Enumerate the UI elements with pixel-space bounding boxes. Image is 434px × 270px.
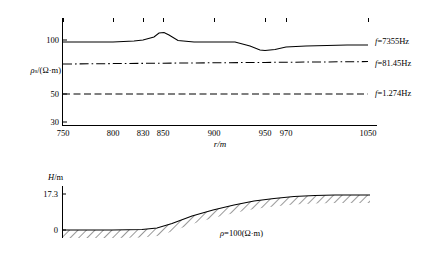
xtick-label-750: 750 <box>57 125 70 138</box>
terrain-profile-chart: H/m 17.3 0 <box>0 168 434 270</box>
bottom-ytick-label-17-3: 17.3 <box>43 189 62 199</box>
xtick-label-850: 850 <box>157 125 170 138</box>
top-plot-area: ρs/(Ω·m) 100 50 30 750 800 830 850 900 9… <box>62 18 377 126</box>
bottom-y-axis-label: H/m <box>48 172 63 182</box>
ytick-label-50: 50 <box>51 89 64 99</box>
resistivity-annotation: ρ=100(Ω·m) <box>220 228 263 238</box>
y-axis-label-top: ρs/(Ω·m) <box>11 66 61 75</box>
figure-container: ρs/(Ω·m) 100 50 30 750 800 830 850 900 9… <box>0 0 434 270</box>
xtick-label-950: 950 <box>259 125 272 138</box>
xtick-label-800: 800 <box>107 125 120 138</box>
curve-f-81-45hz <box>63 62 368 64</box>
terrain-svg <box>62 186 382 248</box>
xtick-label-1050: 1050 <box>360 125 377 138</box>
apparent-resistivity-chart: ρs/(Ω·m) 100 50 30 750 800 830 850 900 9… <box>0 0 434 165</box>
curve-f-7355hz <box>63 33 368 51</box>
bottom-plot-area: H/m 17.3 0 <box>62 186 377 248</box>
x-axis-label-top: r/m <box>214 139 227 149</box>
x-axis-label-text: r/m <box>214 139 227 149</box>
xtick-label-900: 900 <box>208 125 221 138</box>
curve-label-f-81-45hz: f=81.45Hz <box>375 58 411 68</box>
curve-label-f-7355hz: f=7355Hz <box>375 36 409 46</box>
xtick-label-970: 970 <box>280 125 293 138</box>
xtick-label-830: 830 <box>137 125 150 138</box>
top-curves-svg <box>63 18 378 126</box>
bottom-ytick-label-0: 0 <box>54 225 62 235</box>
ytick-label-100: 100 <box>46 35 63 45</box>
curve-label-f-1-274hz: f=1.274Hz <box>375 88 411 98</box>
